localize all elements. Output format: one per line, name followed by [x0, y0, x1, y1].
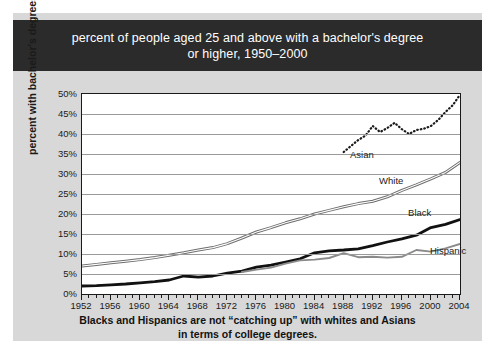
- x-tick-minor: [234, 294, 235, 298]
- chart-caption-line1: Blacks and Hispanics are not “catching u…: [79, 314, 415, 326]
- gridline: [82, 234, 460, 235]
- x-tick-minor: [394, 294, 395, 298]
- series-label-asian: Asian: [350, 149, 374, 160]
- series-line-black: [82, 220, 460, 286]
- x-tick-minor: [212, 294, 213, 298]
- x-axis-tick-labels: 1952195619601964196819721976198019841988…: [13, 300, 482, 314]
- y-axis-tick-labels: 0%5%10%15%20%25%30%35%40%45%50%: [43, 93, 77, 295]
- x-tick-minor: [219, 294, 220, 298]
- x-tick-minor: [154, 294, 155, 298]
- x-tick-minor: [117, 294, 118, 298]
- y-tick-label: 35%: [58, 148, 77, 159]
- plot-container: percent with bachelor's degrees 0%5%10%1…: [13, 71, 482, 341]
- x-tick-minor: [96, 294, 97, 298]
- y-tick-label: 10%: [58, 248, 77, 259]
- x-tick-minor: [263, 294, 264, 298]
- x-tick-label: 1952: [70, 300, 91, 311]
- x-tick-minor: [125, 294, 126, 298]
- x-tick-minor: [321, 294, 322, 298]
- chart-title-line1: percent of people aged 25 and above with…: [72, 31, 424, 45]
- x-tick-minor: [176, 294, 177, 298]
- y-tick-label: 15%: [58, 228, 77, 239]
- x-tick-minor: [415, 294, 416, 298]
- x-tick-minor: [379, 294, 380, 298]
- y-axis-label: percent with bachelor's degrees: [26, 0, 38, 155]
- x-tick-label: 1956: [99, 300, 120, 311]
- x-tick-label: 1988: [332, 300, 353, 311]
- y-tick-label: 20%: [58, 208, 77, 219]
- x-tick-minor: [292, 294, 293, 298]
- x-tick-minor: [365, 294, 366, 298]
- x-tick-minor: [335, 294, 336, 298]
- x-tick-label: 1972: [216, 300, 237, 311]
- x-tick-minor: [328, 294, 329, 298]
- x-tick-minor: [146, 294, 147, 298]
- y-tick-label: 50%: [58, 88, 77, 99]
- x-tick-minor: [350, 294, 351, 298]
- gridline: [82, 154, 460, 155]
- x-tick-minor: [437, 294, 438, 298]
- x-tick-minor: [161, 294, 162, 298]
- gridline: [82, 194, 460, 195]
- x-tick-minor: [452, 294, 453, 298]
- gridline: [82, 114, 460, 115]
- x-tick-minor: [277, 294, 278, 298]
- series-label-hispanic: Hispanic: [430, 245, 466, 256]
- chart-caption: Blacks and Hispanics are not “catching u…: [13, 314, 482, 341]
- chart-caption-line2: in terms of college degrees.: [178, 328, 317, 340]
- y-tick-label: 5%: [63, 268, 77, 279]
- chart-title-line2: or higher, 1950–2000: [187, 47, 307, 61]
- y-tick-label: 40%: [58, 128, 77, 139]
- series-label-white: White: [379, 175, 403, 186]
- x-tick-minor: [306, 294, 307, 298]
- plot-area: [81, 93, 461, 295]
- x-tick-minor: [88, 294, 89, 298]
- series-line-asian: [344, 95, 460, 152]
- x-tick-label: 1964: [158, 300, 179, 311]
- x-tick-minor: [241, 294, 242, 298]
- x-tick-label: 2004: [448, 300, 469, 311]
- series-label-black: Black: [408, 207, 431, 218]
- x-tick-label: 1992: [361, 300, 382, 311]
- y-tick-label: 45%: [58, 108, 77, 119]
- x-tick-minor: [183, 294, 184, 298]
- x-tick-minor: [299, 294, 300, 298]
- y-tick-label: 0%: [63, 288, 77, 299]
- gridline: [82, 274, 460, 275]
- x-tick-minor: [132, 294, 133, 298]
- x-tick-minor: [357, 294, 358, 298]
- x-tick-minor: [423, 294, 424, 298]
- chart-header-bar: percent of people aged 25 and above with…: [13, 20, 482, 71]
- x-tick-label: 1980: [274, 300, 295, 311]
- x-tick-minor: [408, 294, 409, 298]
- y-tick-label: 25%: [58, 188, 77, 199]
- gridline: [82, 214, 460, 215]
- x-tick-label: 1976: [245, 300, 266, 311]
- x-tick-minor: [205, 294, 206, 298]
- x-tick-label: 1984: [303, 300, 324, 311]
- x-tick-minor: [270, 294, 271, 298]
- x-tick-label: 1960: [129, 300, 150, 311]
- chart-card: percent of people aged 25 and above with…: [13, 13, 482, 341]
- x-tick-minor: [444, 294, 445, 298]
- gridline: [82, 134, 460, 135]
- x-tick-label: 1968: [187, 300, 208, 311]
- x-tick-minor: [103, 294, 104, 298]
- x-tick-label: 1996: [390, 300, 411, 311]
- y-tick-label: 30%: [58, 168, 77, 179]
- chart-title: percent of people aged 25 and above with…: [72, 30, 424, 62]
- gridline: [82, 254, 460, 255]
- x-tick-minor: [248, 294, 249, 298]
- x-tick-label: 2000: [419, 300, 440, 311]
- x-tick-minor: [386, 294, 387, 298]
- x-tick-minor: [190, 294, 191, 298]
